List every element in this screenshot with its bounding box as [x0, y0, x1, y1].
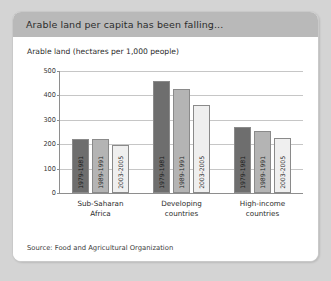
bar-period-label: 2003-2005	[279, 156, 286, 189]
y-axis-tick-label: 500	[43, 67, 56, 75]
group-label-line: Sub-Saharan	[60, 199, 141, 209]
bar-period-label: 1989-1991	[259, 156, 266, 189]
bar: 2003-2005	[274, 138, 291, 193]
plot-wrapper: 0100200300400500 1979-19811989-19912003-…	[13, 38, 318, 262]
bar: 2003-2005	[112, 145, 129, 193]
bar-group: 1979-19811989-19912003-2005High-incomeco…	[222, 71, 303, 193]
card-header: Arable land per capita has been falling.…	[13, 12, 318, 38]
y-axis-tick-label: 200	[43, 140, 56, 148]
chart-card: Arable land per capita has been falling.…	[12, 11, 319, 262]
y-axis-tick-label: 0	[52, 189, 56, 197]
bar: 1989-1991	[173, 89, 190, 193]
bar: 1979-1981	[72, 139, 89, 193]
bar-period-label: 1979-1981	[239, 156, 246, 189]
y-axis-tick-label: 300	[43, 116, 56, 124]
group-label: Sub-SaharanAfrica	[60, 199, 141, 218]
bar-period-label: 1989-1991	[97, 156, 104, 189]
group-label: Developingcountries	[141, 199, 222, 218]
page-title: Arable land per capita has been falling.…	[26, 19, 223, 30]
group-label-line: countries	[141, 209, 222, 219]
bar-group: 1979-19811989-19912003-2005Developingcou…	[141, 71, 222, 193]
bar-groups: 1979-19811989-19912003-2005Sub-SaharanAf…	[60, 71, 303, 193]
bar-period-label: 1989-1991	[178, 156, 185, 189]
group-label: High-incomecountries	[222, 199, 303, 218]
group-label-line: countries	[222, 209, 303, 219]
bar-period-label: 1979-1981	[158, 156, 165, 189]
bar-group: 1979-19811989-19912003-2005Sub-SaharanAf…	[60, 71, 141, 193]
source-note: Source: Food and Agricultural Organizati…	[27, 244, 173, 252]
bar: 1989-1991	[254, 131, 271, 193]
bar-period-label: 2003-2005	[198, 156, 205, 189]
card-body: Arable land (hectares per 1,000 people) …	[13, 38, 318, 262]
y-axis-tick-label: 100	[43, 165, 56, 173]
plot-area: 0100200300400500 1979-19811989-19912003-…	[59, 71, 303, 194]
y-axis-tick	[57, 193, 60, 194]
bar: 1979-1981	[153, 81, 170, 193]
bar: 1989-1991	[92, 139, 109, 193]
bar: 2003-2005	[193, 105, 210, 193]
bar-period-label: 2003-2005	[117, 156, 124, 189]
y-axis-tick-label: 400	[43, 91, 56, 99]
group-label-line: Developing	[141, 199, 222, 209]
group-label-line: Africa	[60, 209, 141, 219]
group-label-line: High-income	[222, 199, 303, 209]
bar: 1979-1981	[234, 127, 251, 193]
bar-period-label: 1979-1981	[77, 156, 84, 189]
